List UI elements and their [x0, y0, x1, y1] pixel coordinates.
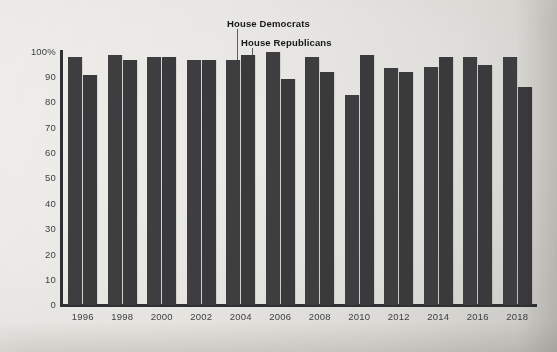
bar — [399, 72, 413, 305]
y-tick-label: 10 — [4, 274, 56, 285]
bar — [360, 55, 374, 305]
x-tick-label: 1998 — [102, 311, 142, 322]
chart-page: House Democrats House Republicans 100% 9… — [0, 0, 557, 352]
bar — [241, 55, 255, 305]
bar — [266, 52, 280, 305]
annotation-house-democrats: House Democrats — [227, 18, 310, 29]
bar — [478, 65, 492, 305]
x-tick-label: 2016 — [458, 311, 498, 322]
bar — [162, 57, 176, 305]
bar — [226, 60, 240, 305]
bar — [281, 79, 295, 305]
y-axis-line — [60, 50, 63, 307]
y-tick-label: 20 — [4, 249, 56, 260]
bar — [439, 57, 453, 305]
bar — [68, 57, 82, 305]
y-tick-label: 30 — [4, 223, 56, 234]
bar — [518, 87, 532, 305]
bar — [384, 68, 398, 305]
y-tick-label: 0 — [4, 299, 56, 310]
bar — [123, 60, 137, 305]
bar — [463, 57, 477, 305]
x-tick-label: 2018 — [497, 311, 537, 322]
bar — [83, 75, 97, 305]
leader-line-house-democrats — [237, 29, 238, 60]
x-tick-label: 2000 — [142, 311, 182, 322]
bar — [108, 55, 122, 305]
y-tick-label: 50 — [4, 172, 56, 183]
y-tick-label: 70 — [4, 122, 56, 133]
y-tick-label: 90 — [4, 71, 56, 82]
bar — [320, 72, 334, 305]
y-tick-label: 80 — [4, 96, 56, 107]
x-tick-label: 2008 — [300, 311, 340, 322]
bar — [147, 57, 161, 305]
bar-chart: House Democrats House Republicans 100% 9… — [0, 0, 557, 352]
x-tick-label: 2002 — [181, 311, 221, 322]
y-tick-label: 40 — [4, 198, 56, 209]
bar — [503, 57, 517, 305]
x-tick-label: 2014 — [418, 311, 458, 322]
bar — [202, 60, 216, 305]
x-tick-label: 2004 — [221, 311, 261, 322]
y-tick-label: 60 — [4, 147, 56, 158]
x-tick-label: 2006 — [260, 311, 300, 322]
y-tick-label: 100% — [4, 46, 56, 57]
bar — [187, 60, 201, 305]
x-tick-label: 1996 — [63, 311, 103, 322]
x-tick-label: 2010 — [339, 311, 379, 322]
annotation-house-republicans: House Republicans — [241, 37, 332, 48]
bar — [424, 67, 438, 305]
bar — [345, 95, 359, 305]
x-tick-label: 2012 — [379, 311, 419, 322]
bar — [305, 57, 319, 305]
